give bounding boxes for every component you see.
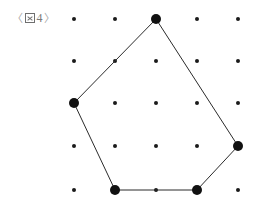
grid-dot [113, 101, 117, 105]
grid-dot [195, 59, 199, 63]
grid-dot [195, 17, 199, 21]
polygon-vertex-top [151, 14, 161, 24]
grid-dot [113, 17, 117, 21]
grid-dot [195, 101, 199, 105]
polygon-vertex-left [69, 98, 79, 108]
polygon-vertex-bottom-right [192, 185, 202, 195]
grid-dot-group [72, 17, 240, 192]
grid-dot [154, 144, 158, 148]
figure-container: 〈4〉 [0, 0, 260, 208]
grid-dot [236, 188, 240, 192]
grid-dot [72, 59, 76, 63]
grid-dot [72, 188, 76, 192]
grid-dot [236, 17, 240, 21]
grid-dot [195, 144, 199, 148]
grid-dot [154, 101, 158, 105]
grid-dot [72, 144, 76, 148]
grid-dot [154, 59, 158, 63]
dot-grid-polygon-diagram [0, 0, 260, 208]
polygon-vertex-bottom-left [110, 185, 120, 195]
grid-dot [113, 144, 117, 148]
polygon-vertex-right [233, 141, 243, 151]
grid-dot [236, 59, 240, 63]
grid-dot [236, 101, 240, 105]
grid-dot [72, 17, 76, 21]
